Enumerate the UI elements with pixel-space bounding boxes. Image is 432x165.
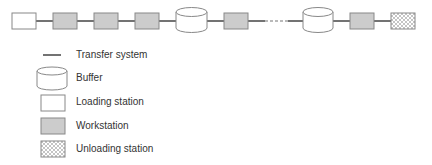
legend-workstation-icon — [41, 118, 65, 134]
production-line-diagram — [0, 0, 432, 165]
workstation-5 — [350, 13, 374, 29]
loading-station — [12, 13, 36, 29]
buffer-2 — [303, 8, 333, 33]
legend-loading-station-icon — [41, 95, 65, 111]
legend-label-unloading-station: Unloading station — [76, 143, 153, 155]
workstation-3 — [135, 13, 159, 29]
legend-unloading-station-icon — [41, 141, 65, 157]
buffer-1 — [176, 8, 207, 33]
legend-label-transfer-system: Transfer system — [76, 49, 147, 61]
workstation-1 — [53, 13, 77, 29]
workstation-2 — [94, 13, 118, 29]
legend-label-loading-station: Loading station — [76, 96, 144, 108]
workstation-4 — [224, 13, 248, 29]
legend-label-buffer: Buffer — [76, 72, 103, 84]
legend-label-workstation: Workstation — [76, 120, 129, 132]
unloading-station — [391, 13, 415, 29]
legend-buffer-icon — [37, 67, 67, 90]
